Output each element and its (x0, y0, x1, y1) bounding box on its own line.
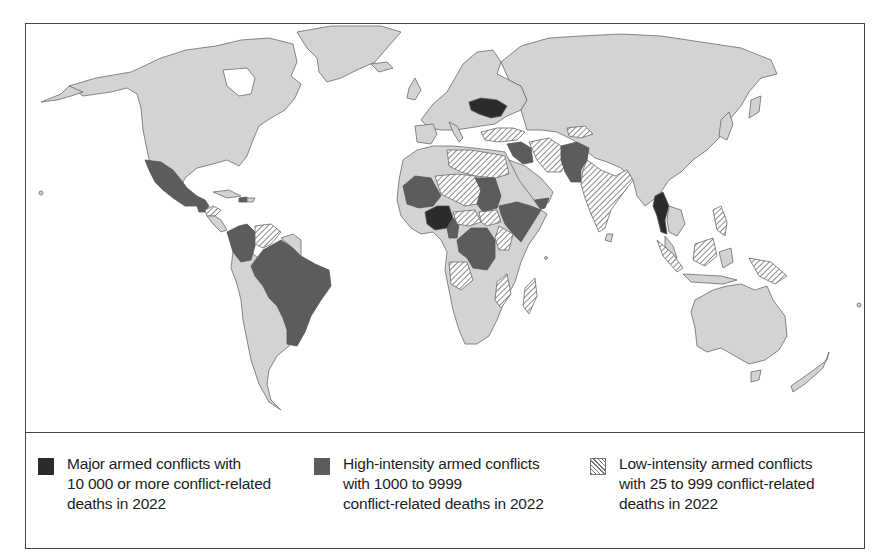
legend-label-high: High-intensity armed conflicts with 1000… (343, 454, 544, 514)
legend-label-major: Major armed conflicts with 10 000 or mor… (67, 454, 271, 514)
map-figure: Major armed conflicts with 10 000 or mor… (25, 23, 865, 549)
legend-item-low: Low-intensity armed conflicts with 25 to… (590, 454, 814, 514)
greenland (297, 26, 401, 82)
turkey (481, 128, 525, 142)
major-conflict-swatch (38, 458, 54, 475)
high-intensity-swatch (314, 458, 330, 475)
legend: Major armed conflicts with 10 000 or mor… (26, 434, 864, 548)
low-intensity-hatch-swatch (590, 458, 606, 475)
legend-item-high: High-intensity armed conflicts with 1000… (314, 454, 544, 514)
legend-label-low: Low-intensity armed conflicts with 25 to… (619, 454, 814, 514)
colombia (227, 224, 255, 262)
philippines (713, 206, 727, 236)
australia (691, 284, 787, 364)
indonesia-borneo (693, 238, 717, 266)
north-america (69, 38, 301, 196)
india (581, 160, 633, 232)
madagascar (523, 278, 537, 314)
world-map (26, 24, 863, 432)
haiti (239, 197, 247, 202)
world-map-svg (26, 24, 863, 432)
papua-new-guinea (749, 258, 787, 284)
legend-item-major: Major armed conflicts with 10 000 or mor… (38, 454, 271, 514)
myanmar (653, 192, 669, 234)
legend-divider (26, 432, 864, 433)
